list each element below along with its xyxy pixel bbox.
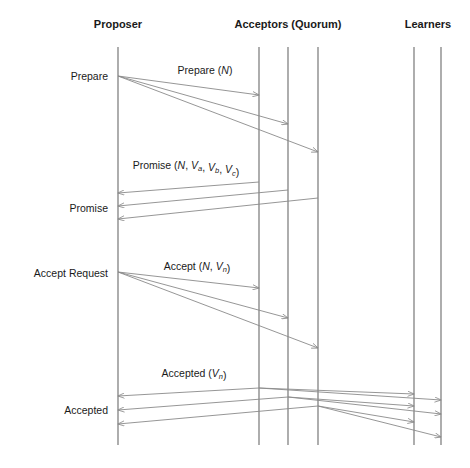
stage-labels-group: PreparePromiseAccept RequestAccepted — [34, 70, 108, 416]
stage-label-prepare: Prepare — [71, 70, 109, 82]
actor-title-acceptors: Acceptors (Quorum) — [235, 18, 342, 30]
message-arrows-group — [118, 76, 441, 437]
message-label-prepare-msg: Prepare (N) — [178, 64, 233, 76]
message-label-promise-msg: Promise (N, Va, Vb, Vc) — [133, 159, 240, 178]
actor-titles-group: ProposerAcceptors (Quorum)Learners — [94, 18, 451, 30]
message-arrow-accepted-a1-proposer — [118, 388, 259, 396]
sequence-diagram-page: ProposerAcceptors (Quorum)Learners Prepa… — [0, 0, 470, 468]
message-arrow-accepted-a2-learner1 — [288, 397, 414, 406]
message-label-accept-msg: Accept (N, Vn) — [164, 260, 231, 274]
message-label-accepted-msg: Accepted (Vn) — [162, 367, 227, 381]
message-arrow-prepare-1 — [118, 76, 259, 95]
message-labels-group: Prepare (N)Promise (N, Va, Vb, Vc)Accept… — [133, 64, 240, 381]
message-arrow-prepare-2 — [118, 76, 288, 124]
message-arrow-promise-1 — [118, 182, 259, 193]
actor-title-learners: Learners — [405, 18, 451, 30]
stage-label-accepted: Accepted — [64, 404, 108, 416]
paxos-sequence-diagram: ProposerAcceptors (Quorum)Learners Prepa… — [0, 0, 470, 468]
message-arrow-accepted-a3-learner2 — [318, 406, 441, 437]
message-arrow-accepted-a2-learner2 — [288, 397, 441, 414]
lifelines-group — [118, 47, 441, 445]
actor-title-proposer: Proposer — [94, 18, 143, 30]
message-arrow-accept-2 — [118, 272, 288, 318]
stage-label-promise: Promise — [69, 202, 108, 214]
message-arrow-accepted-a3-learner1 — [318, 406, 414, 422]
message-arrow-accepted-a2-proposer — [118, 397, 288, 410]
stage-label-accept-request: Accept Request — [34, 267, 108, 279]
